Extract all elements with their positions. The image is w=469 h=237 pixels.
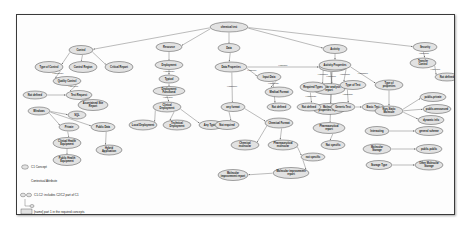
node-typeofprop[interactable]: Type ofproperties [375,80,403,90]
edge-pharmacomolec-notspecific [297,147,301,155]
edge-anyformat-notrequired [229,112,231,120]
node-label-actproperties: Activity Properties [324,63,347,67]
edge-dataproperties-anyformat [232,73,233,102]
node-notdefined2[interactable]: Not defined [267,103,291,111]
node-notdefined1[interactable]: Not defined [23,91,47,99]
node-qualitycontrol[interactable]: Quality Control [53,77,81,86]
node-ascertain[interactable]: Ascertained SiteReport [78,100,108,111]
node-dynamicinfo[interactable]: dynamic info [418,116,444,125]
node-generalscheme[interactable]: general scheme [415,127,443,136]
node-label-control: Control [76,48,85,52]
edge-publicdata-hybridapp [106,132,107,145]
node-actproperties[interactable]: Activity Properties [319,60,351,70]
node-label-notdefined4: Not defined [440,75,454,79]
node-label-controlregion: Control Region [74,65,93,69]
edge-label-deployment-typical: HasRange [164,70,176,72]
node-transfercontrol[interactable]: TransferControl [410,58,436,68]
node-resource[interactable]: Resource [156,43,182,52]
node-label-transfercontrol: Control [418,62,427,66]
edge-control-criticalreport [93,52,106,64]
node-chemicalmolec[interactable]: Chemicalmolecular [231,140,259,150]
node-label-storagetype: Storage Type [371,163,388,167]
node-label-resource: Resource [163,45,175,49]
edge-root-security [248,28,412,47]
node-pharmacomolec[interactable]: Pharmaceuticalmolecular [268,140,298,150]
node-clinicalhealth[interactable]: Clinical HealthEquipment [53,138,81,149]
node-inputdata[interactable]: Input Data [257,73,281,82]
node-pharmareport[interactable]: Pharmaceuticalreport [313,123,345,134]
node-notdefined3[interactable]: Not defined [297,103,321,111]
node-interacting[interactable]: Interacting [365,127,389,136]
node-windows[interactable]: Windows [28,107,50,115]
node-molecimprove2[interactable]: Molecularimprovement report [218,170,248,181]
node-othermolec[interactable]: Other MolecularStorage [415,160,443,170]
legend-item-required: [name] part 1 in the required concepts [34,210,85,214]
node-localdeploy[interactable]: Local Deployment [129,120,157,130]
node-typical[interactable]: Typical [159,75,179,83]
node-controlregion[interactable]: Control Region [69,62,97,73]
node-generictest[interactable]: Generic Test [331,103,355,112]
node-label-anyformat: any format [226,105,239,109]
node-molecimprove[interactable]: Molecular improvementreport [273,168,309,179]
node-label-publichealth: Equipment [60,159,74,163]
node-molecstorage[interactable]: MolecularStorage [363,144,391,154]
edge-label-actproperties-requiredtypes: HasName [318,73,329,75]
node-label-dynamicinfo: dynamic info [423,118,439,122]
node-label-data: Data [226,46,232,50]
node-label-security: Security [420,45,431,49]
node-deployment[interactable]: Deployment [155,61,183,70]
node-label-notdefined1: Not defined [28,93,43,97]
node-publichealth[interactable]: Public HealthEquipment [53,155,81,166]
node-dataproperties[interactable]: Data Properties [215,62,247,72]
node-data[interactable]: Data [218,44,240,53]
node-private[interactable]: Private [59,123,79,131]
node-notrequired[interactable]: Not required [215,121,239,130]
edge-clinical-techdeploy [170,112,174,120]
node-label-typeoftest: Type of Test [346,83,361,87]
node-publicdata[interactable]: Public Data [91,123,115,132]
node-notdefined4[interactable]: Not defined [435,73,454,81]
concept-map-canvas: HasRangeHasValueHasRangeHasValueHasMoreH… [17,15,454,214]
node-notspecific2[interactable]: Not specific [321,141,345,150]
node-label-publicpublic: public-public [421,147,438,151]
edge-notspecific-molecimprove [303,160,306,170]
node-testrequest[interactable]: Test Request [66,91,92,100]
node-requiredtypes[interactable]: Required Types [300,82,326,92]
node-label-pharmareport: report [325,127,333,131]
node-publicprivate[interactable]: public-private [420,93,446,102]
edge-label-inputdata-medicalformat: HasRange [268,82,280,84]
node-criticalreport[interactable]: Critical Report [105,62,133,73]
edge-label-qualitycontrol-testrequest: HasValue [68,85,79,87]
node-clinical[interactable]: ClinicalDeployment [153,102,181,112]
node-storagetype[interactable]: Storage Type [366,161,392,170]
node-deploymentfunc[interactable]: DeploymentFunctional [153,87,185,96]
node-label-activity: Activity [330,47,340,51]
node-notspecific[interactable]: not specific [301,153,325,161]
node-publicannounce[interactable]: public-announced [423,105,451,114]
node-label-requiredtypes: Required Types [303,85,323,89]
legend-bracket-node-icon [30,205,34,208]
node-nonstaticmolec[interactable]: Non-StaticMolecule [375,106,403,116]
legend-bracket-icon [25,199,30,206]
node-publicpublic[interactable]: public-public [416,145,442,154]
edge-actproperties-typeoftest [344,69,346,81]
node-security[interactable]: Security [413,43,437,52]
edge-clinical-localdeploy [155,110,156,121]
node-label-molecimprove2: improvement report [221,174,246,178]
node-chemicalformat[interactable]: Chemical Format [265,118,293,128]
node-medicalformat[interactable]: Medical Format [265,87,293,97]
node-label-inputdata: Input Data [263,75,276,79]
node-typeoftest[interactable]: Type of Test [340,81,366,90]
node-techdeploy[interactable]: TechnicalDeployment [163,120,191,130]
node-label-criticalreport: Critical Report [110,65,128,69]
node-root[interactable]: chemical test [210,22,248,32]
edge-label-actproperties-typeoftest: HasName [340,73,351,75]
node-typeofcontrol[interactable]: Type of Control [35,62,63,73]
node-control[interactable]: Control [69,46,93,55]
node-anyformat[interactable]: any format [221,103,245,112]
node-label-windows: Windows [33,109,45,113]
node-hybridapp[interactable]: HybridApplication [96,145,122,155]
node-sql[interactable]: SQL [68,111,86,119]
node-activity[interactable]: Activity [323,45,347,54]
node-label-chemicalmolec: molecular [239,144,251,148]
